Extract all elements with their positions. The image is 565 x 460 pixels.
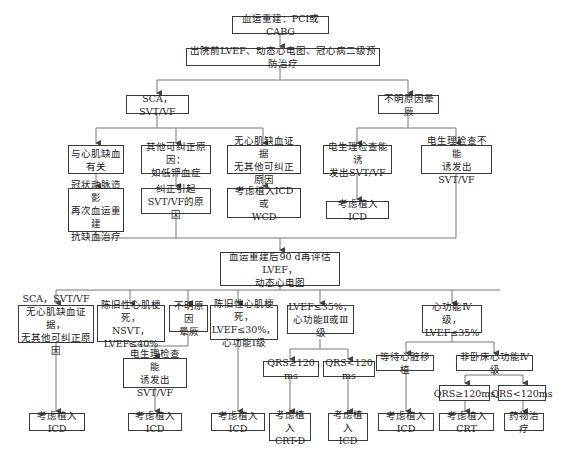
node-ambulatory-nyha4: 非卧床心功能Ⅳ级 [456, 355, 533, 371]
node-coronary-angiography: 冠状动脉造影 再次血运重建 抗缺血治疗 [68, 188, 124, 232]
node-ep-inducible-2: 电生理检查能 诱发出SVT/VF [123, 358, 187, 388]
node-other-correctable-cause: 其他可纠正原因： 如低钾血症 [141, 145, 211, 174]
node-qrs-lt-120-b: QRS<120ms [498, 385, 546, 401]
node-90d-reassessment: 血运重建后90 d再评估LVEF， 动态心电图 [220, 252, 340, 286]
node-outcome-crt-d: 考虑植入 CRT-D [269, 413, 311, 441]
node-no-ischemia-evidence: 无心肌缺血证据 无其他可纠正原因 [227, 145, 301, 174]
node-outcome-icd-5: 考虑植入ICD [378, 413, 434, 431]
node-qrs-lt-120-a: QRS<120 ms [323, 361, 375, 377]
node-nyha4-lvef35: 心功能Ⅳ级， LVEF≤35% [422, 305, 482, 333]
node-consider-icd-top: 考虑植入ICD [326, 201, 389, 219]
node-outcome-crt: 考虑植入CRT [439, 413, 494, 431]
node-lvef35-nyha-2-3: LVEF≤35%， 心功能Ⅱ或Ⅲ级 [287, 305, 354, 334]
node-correct-cause: 纠正引起 SVT/VF的原因 [141, 188, 211, 214]
node-await-transplant: 等待心脏移植 [376, 355, 434, 371]
node-predischarge-evaluation: 出院前LVEF、动态心电图、冠心病二级预防治疗 [186, 48, 380, 66]
node-old-mi-nsvt: 陈旧性心肌梗死， NSVT， LVEF≤40% [97, 305, 165, 342]
node-outcome-icd-3: 考虑植入ICD [211, 413, 265, 431]
node-unexplained-syncope-2: 不明原因 晕厥 [169, 305, 208, 332]
node-revascularization: 血运重建：PCI或CABG [232, 16, 329, 34]
node-ep-non-inducible: 电生理检查不能 诱发出SVT/VF [421, 145, 492, 174]
node-outcome-icd-4: 考虑植入 ICD [328, 413, 368, 441]
node-unexplained-syncope: 不明原因晕厥 [378, 95, 439, 114]
node-old-mi-lvef30: 陈旧性心肌梗死， LVEF≤30%， 心功能Ⅰ级 [210, 305, 278, 340]
node-sca-no-ischemia: SCA，SVT/VF 无心肌缺血证据， 无其他可纠正原因 [18, 305, 94, 343]
node-outcome-icd-2: 考虑植入ICD [128, 413, 182, 431]
node-qrs-ge-120-b: QRS≥120ms [439, 385, 490, 401]
node-ischemia-related: 与心肌缺血 有关 [68, 145, 124, 174]
node-ep-inducible: 电生理检查能诱 发出SVT/VF [323, 145, 392, 174]
node-outcome-medication: 药物治疗 [504, 413, 544, 431]
node-consider-icd-or-wcd: 考虑植入ICD或 WCD [227, 188, 301, 218]
node-outcome-icd-1: 考虑植入ICD [29, 413, 85, 431]
node-sca-svt-vf: SCA，SVT/VF [126, 95, 189, 114]
node-qrs-ge-120-a: QRS≥120 ms [263, 361, 319, 377]
